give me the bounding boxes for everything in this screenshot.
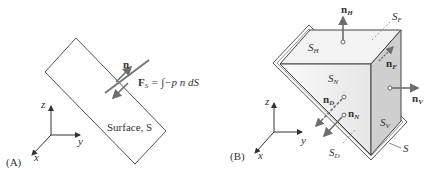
y-label-a: y xyxy=(77,135,83,147)
x-label-a: x xyxy=(33,151,39,163)
surface-s-plate xyxy=(45,38,166,164)
label-nv: nV xyxy=(412,92,424,106)
label-sd: SD xyxy=(329,146,340,160)
x-label-b: x xyxy=(257,149,263,161)
y-label-b: y xyxy=(300,134,306,146)
panel-b: SH SN SV SF nH nF nV nD nN SD S xyxy=(230,3,424,163)
z-label-b: z xyxy=(264,95,270,107)
panel-a: n FS = ∫−p n dS Surface, S z y x (A) xyxy=(6,38,200,169)
face-sn xyxy=(280,64,371,155)
panel-a-label: (A) xyxy=(6,156,22,169)
force-equation: FS = ∫−p n dS xyxy=(138,76,200,90)
panel-b-label: (B) xyxy=(230,150,245,163)
z-label-a: z xyxy=(40,98,46,110)
surface-label: Surface, S xyxy=(107,121,152,133)
nd-origin xyxy=(342,95,346,99)
normal-label-n: n xyxy=(123,58,129,70)
normal-arrow-nn xyxy=(324,117,342,136)
diagram-canvas: n FS = ∫−p n dS Surface, S z y x (A) SH … xyxy=(0,0,435,177)
label-s: S xyxy=(403,142,409,154)
nv-origin xyxy=(388,86,392,90)
s-leader xyxy=(389,143,401,148)
nh-origin xyxy=(341,40,345,44)
nn-origin xyxy=(342,113,346,117)
label-nh: nH xyxy=(341,3,353,17)
label-sf: SF xyxy=(392,10,403,24)
